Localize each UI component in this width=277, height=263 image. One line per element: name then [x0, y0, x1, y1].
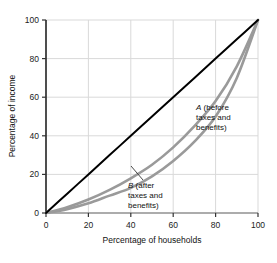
x-tick-label-60: 60: [168, 220, 178, 230]
y-tick-label-60: 60: [30, 92, 40, 102]
x-tick-labels: 0 20 40 60 80 100: [44, 220, 266, 230]
y-tick-label-0: 0: [34, 208, 39, 218]
x-tick-label-0: 0: [44, 220, 49, 230]
y-tick-label-20: 20: [30, 169, 40, 179]
label-a-line2: taxes and: [196, 113, 231, 122]
x-axis-title: Percentage of households: [103, 235, 202, 245]
y-tick-label-80: 80: [30, 54, 40, 64]
x-tick-label-40: 40: [126, 220, 136, 230]
y-tick-label-40: 40: [30, 131, 40, 141]
svg-text:B (after: B (after: [128, 181, 155, 190]
label-b-line1-rest: (after: [133, 181, 154, 190]
svg-text:A (before: A (before: [195, 103, 229, 112]
chart-canvas: A (before taxes and benefits) B (after t…: [0, 0, 277, 263]
annotation-label-a: A (before taxes and benefits): [195, 103, 231, 132]
y-tick-label-100: 100: [25, 15, 39, 25]
label-a-line1-rest: (before: [201, 103, 229, 112]
label-b-line2: taxes and: [128, 191, 163, 200]
label-b-line3: benefits): [128, 201, 159, 210]
x-tick-label-20: 20: [84, 220, 94, 230]
y-tick-labels: 100 80 60 40 20 0: [25, 15, 39, 218]
lorenz-curve-chart: A (before taxes and benefits) B (after t…: [0, 0, 277, 263]
x-tick-marks: [46, 213, 258, 217]
x-tick-label-100: 100: [251, 220, 265, 230]
label-a-line3: benefits): [196, 123, 227, 132]
y-axis-title: Percentage of income: [7, 74, 17, 157]
x-tick-label-80: 80: [211, 220, 221, 230]
